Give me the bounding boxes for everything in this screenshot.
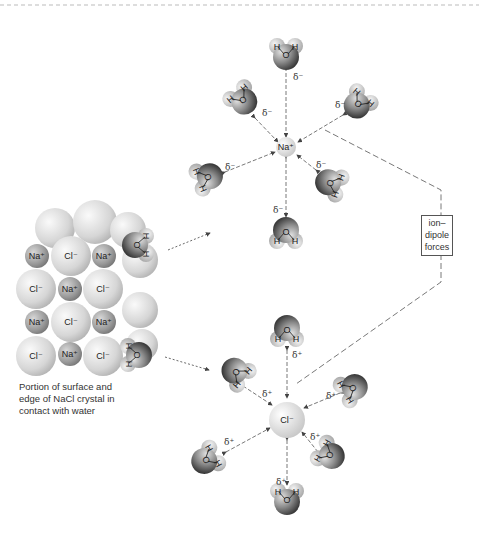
svg-text:Cl⁻: Cl⁻	[96, 351, 110, 361]
box-line-2: dipole	[422, 229, 452, 241]
svg-text:δ⁺: δ⁺	[276, 477, 286, 487]
svg-text:Cl⁻: Cl⁻	[280, 415, 294, 425]
svg-text:δ⁺: δ⁺	[292, 350, 302, 360]
svg-text:Cl⁻: Cl⁻	[29, 284, 43, 294]
ion-dipole-diagram: H H O Na⁺ Cl⁻ Na⁺ Cl⁻ Na⁺ Cl⁻ Na⁺ Cl⁻	[0, 0, 479, 542]
svg-text:δ⁺: δ⁺	[326, 391, 336, 401]
svg-text:Cl⁻: Cl⁻	[64, 317, 78, 327]
svg-text:δ⁻: δ⁻	[273, 205, 283, 215]
svg-text:Na⁺: Na⁺	[278, 142, 295, 152]
svg-text:δ⁺: δ⁺	[224, 437, 234, 447]
svg-text:δ⁻: δ⁻	[316, 160, 326, 170]
svg-text:δ⁺: δ⁺	[262, 389, 272, 399]
svg-text:Na⁺: Na⁺	[96, 251, 113, 261]
pointer-arrow-to-cl	[165, 357, 209, 370]
svg-text:Na⁺: Na⁺	[29, 251, 46, 261]
ion-dipole-forces-label: ion– dipole forces	[421, 215, 453, 256]
svg-text:δ⁻: δ⁻	[262, 108, 272, 118]
svg-text:Cl⁻: Cl⁻	[96, 284, 110, 294]
svg-text:δ⁻: δ⁻	[225, 162, 235, 172]
svg-text:Na⁺: Na⁺	[29, 317, 46, 327]
box-line-3: forces	[422, 241, 452, 253]
svg-text:Cl⁻: Cl⁻	[64, 251, 78, 261]
pointer-arrow-to-na	[168, 233, 210, 250]
svg-text:Na⁺: Na⁺	[96, 317, 113, 327]
svg-text:δ⁻: δ⁻	[293, 72, 303, 82]
svg-text:δ⁻: δ⁻	[335, 100, 345, 110]
svg-text:Na⁺: Na⁺	[62, 284, 79, 294]
nacl-crystal: Na⁺ Cl⁻ Na⁺ Cl⁻ Na⁺ Cl⁻ Na⁺ Cl⁻ Na⁺ Cl⁻ …	[16, 200, 158, 376]
box-line-1: ion–	[422, 217, 452, 229]
crystal-caption: Portion of surface and edge of NaCl crys…	[19, 381, 129, 417]
svg-text:δ⁺: δ⁺	[310, 432, 320, 442]
svg-text:Cl⁻: Cl⁻	[29, 351, 43, 361]
svg-text:Na⁺: Na⁺	[62, 349, 79, 359]
